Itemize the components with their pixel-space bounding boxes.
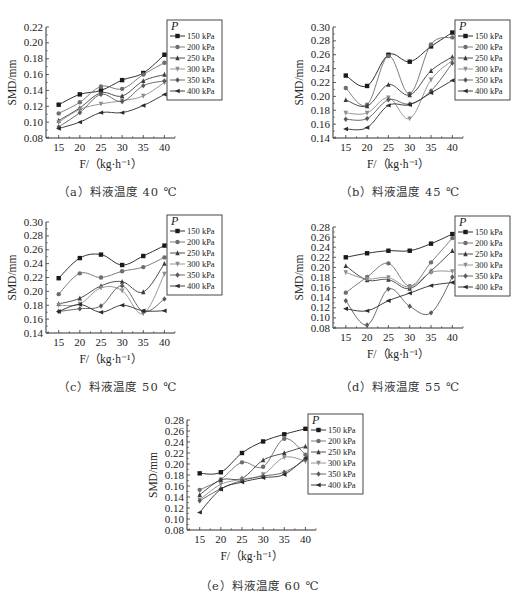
y-axis-ticks: 0.080.100.120.140.160.180.200.220.240.26… [165, 414, 190, 536]
chart-e-svg: 0.080.100.120.140.160.180.200.220.240.26… [130, 400, 400, 603]
legend-entry: 350 kPa [475, 271, 503, 281]
legend-entry: 150 kPa [187, 31, 215, 41]
legend-entry: 400 kPa [475, 86, 503, 96]
axes [187, 420, 316, 530]
legend-title: P [458, 215, 467, 229]
x-tick-label: 35 [138, 336, 150, 348]
series-group [343, 232, 454, 328]
legend: P150 kPa200 kPa250 kPa300 kPa350 kPa400 … [455, 19, 510, 100]
x-tick-label: 25 [383, 141, 395, 153]
chart-b-svg: 0.140.160.180.200.220.240.260.280.301520… [258, 0, 517, 200]
y-tick-label: 0.30 [311, 21, 331, 33]
legend-entry: 400 kPa [328, 480, 356, 490]
x-tick-label: 35 [426, 331, 438, 343]
series-250-kpa [344, 54, 455, 108]
legend-entry: 250 kPa [475, 249, 503, 259]
x-tick-label: 20 [74, 141, 86, 153]
legend-title: P [170, 214, 179, 228]
legend-entry: 350 kPa [475, 75, 503, 85]
x-axis-title: F/（kg·h⁻¹） [220, 550, 282, 563]
y-tick-label: 0.14 [24, 327, 44, 339]
y-axis-title: SMD/mm [293, 254, 305, 300]
y-tick-label: 0.10 [24, 116, 44, 128]
legend: P150 kPa200 kPa250 kPa300 kPa350 kPa400 … [167, 214, 222, 295]
legend-entry: 300 kPa [475, 260, 503, 270]
x-tick-label: 15 [53, 336, 65, 348]
y-tick-label: 0.24 [165, 436, 185, 448]
x-axis-title: F/（kg·h⁻¹） [367, 158, 429, 171]
x-axis-title: F/（kg·h⁻¹） [79, 158, 141, 171]
caption-e: （e）料液温度 60 ℃ [200, 577, 320, 593]
x-tick-label: 30 [258, 533, 270, 545]
legend-entry: 250 kPa [187, 248, 215, 258]
series-200-kpa [344, 35, 455, 107]
chart-panel-b: 0.140.160.180.200.220.240.260.280.301520… [258, 0, 517, 200]
legend-entry: 250 kPa [475, 53, 503, 63]
x-tick-label: 15 [194, 533, 206, 545]
y-tick-label: 0.14 [24, 84, 44, 96]
x-axis-title: F/（kg·h⁻¹） [367, 348, 429, 361]
x-axis-title: F/（kg·h⁻¹） [79, 353, 141, 366]
y-tick-label: 0.26 [311, 48, 331, 60]
series-350-kpa [344, 60, 455, 122]
chart-panel-c: 0.140.160.180.200.220.240.260.280.301520… [0, 200, 258, 400]
y-tick-label: 0.08 [165, 524, 185, 536]
chart-c-svg: 0.140.160.180.200.220.240.260.280.301520… [0, 200, 258, 400]
y-tick-label: 0.20 [24, 285, 44, 297]
legend-entry: 350 kPa [187, 75, 215, 85]
y-tick-label: 0.28 [24, 229, 44, 241]
x-tick-label: 20 [362, 331, 374, 343]
x-tick-label: 30 [117, 141, 129, 153]
x-tick-label: 20 [215, 533, 227, 545]
chart-panel-a: 0.080.100.120.140.160.180.200.2215202530… [0, 0, 258, 200]
legend-entry: 250 kPa [328, 447, 356, 457]
x-tick-label: 25 [95, 141, 107, 153]
legend-entry: 250 kPa [187, 53, 215, 63]
legend-entry: 150 kPa [187, 226, 215, 236]
y-axis-ticks: 0.080.100.120.140.160.180.200.220.240.26… [311, 221, 336, 334]
y-tick-label: 0.18 [311, 104, 331, 116]
y-tick-label: 0.20 [311, 90, 331, 102]
y-tick-label: 0.14 [311, 132, 331, 144]
series-group [56, 53, 167, 131]
caption-b: （b）料液温度 45 ℃ [340, 183, 460, 199]
x-tick-label: 25 [383, 331, 395, 343]
series-150-kpa [56, 53, 166, 107]
legend-entry: 150 kPa [475, 227, 503, 237]
y-axis-title: SMD/mm [147, 452, 159, 498]
series-300-kpa [344, 269, 455, 290]
legend-entry: 300 kPa [475, 64, 503, 74]
legend: P150 kPa200 kPa250 kPa300 kPa350 kPa400 … [308, 413, 363, 494]
legend-entry: 300 kPa [187, 64, 215, 74]
chart-a-svg: 0.080.100.120.140.160.180.200.2215202530… [0, 0, 258, 200]
x-tick-label: 20 [362, 141, 374, 153]
series-200-kpa [56, 60, 166, 115]
legend-entry: 200 kPa [187, 42, 215, 52]
caption-c: （c）料液温度 50 ℃ [58, 378, 177, 394]
legend-entry: 200 kPa [475, 42, 503, 52]
x-tick-label: 30 [404, 141, 416, 153]
y-tick-label: 0.28 [165, 414, 185, 426]
x-tick-label: 30 [404, 331, 416, 343]
y-tick-label: 0.24 [24, 257, 44, 269]
axes [333, 227, 463, 328]
y-axis-ticks: 0.080.100.120.140.160.180.200.22 [24, 21, 49, 144]
y-tick-label: 0.26 [165, 425, 185, 437]
x-tick-label: 15 [340, 141, 352, 153]
legend-entry: 400 kPa [187, 86, 215, 96]
y-tick-label: 0.18 [165, 469, 185, 481]
legend-title: P [170, 19, 179, 33]
x-tick-label: 40 [300, 533, 312, 545]
legend-entry: 200 kPa [328, 436, 356, 446]
x-tick-label: 25 [95, 336, 107, 348]
legend-entry: 150 kPa [475, 31, 503, 41]
y-tick-label: 0.22 [165, 447, 184, 459]
series-250-kpa [56, 261, 166, 306]
y-axis-title: SMD/mm [6, 59, 18, 105]
series-400-kpa [56, 302, 167, 314]
x-tick-label: 15 [53, 141, 65, 153]
x-tick-label: 30 [117, 336, 129, 348]
x-tick-label: 40 [447, 331, 459, 343]
x-tick-label: 40 [159, 141, 171, 153]
series-200-kpa [56, 255, 166, 296]
